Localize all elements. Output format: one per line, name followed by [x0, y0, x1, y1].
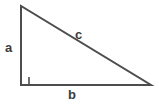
triangle-outline [21, 6, 151, 85]
side-label-c: c [75, 28, 82, 41]
right-triangle-diagram: a b c [0, 0, 159, 104]
side-label-b: b [68, 88, 76, 101]
side-label-a: a [5, 41, 12, 54]
triangle-graphic [0, 0, 159, 104]
